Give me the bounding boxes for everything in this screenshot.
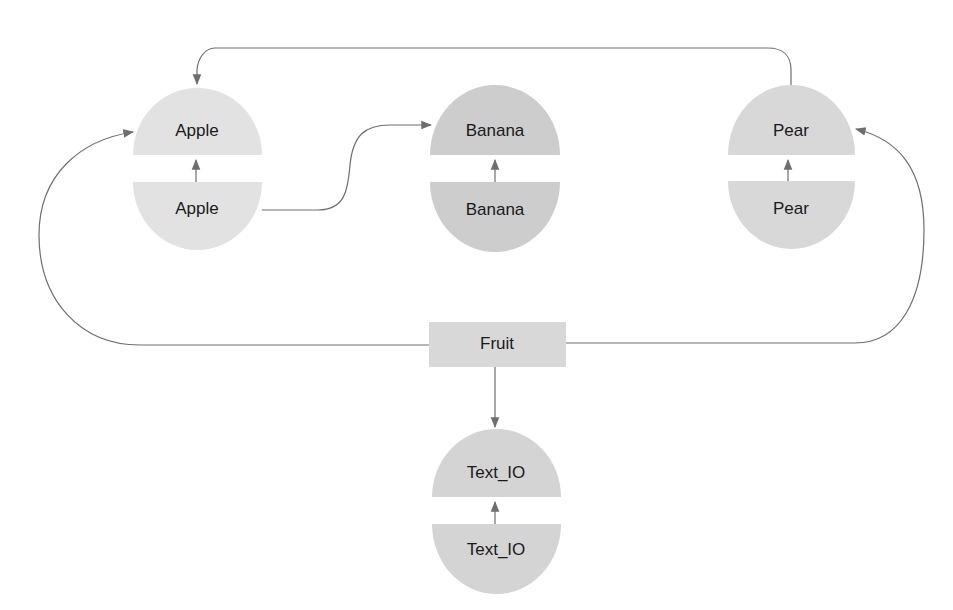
node-pear-spec-label: Pear bbox=[773, 121, 809, 140]
node-apple-body-label: Apple bbox=[175, 199, 218, 218]
node-textio-spec[interactable]: Text_IO bbox=[432, 429, 561, 497]
node-apple-spec-label: Apple bbox=[175, 121, 218, 140]
node-apple-body[interactable]: Apple bbox=[133, 182, 262, 250]
node-banana-body-label: Banana bbox=[466, 200, 525, 219]
node-pear-spec[interactable]: Pear bbox=[728, 85, 855, 155]
edge-fruit-to-apple bbox=[39, 132, 429, 345]
node-textio-spec-label: Text_IO bbox=[467, 463, 526, 482]
node-pear-body[interactable]: Pear bbox=[728, 181, 855, 249]
node-banana-spec[interactable]: Banana bbox=[430, 85, 560, 155]
node-pear-body-label: Pear bbox=[773, 199, 809, 218]
node-banana-spec-label: Banana bbox=[466, 121, 525, 140]
edge-pear-to-apple bbox=[197, 48, 791, 85]
edge-apple-to-banana bbox=[262, 125, 431, 210]
node-apple-spec[interactable]: Apple bbox=[133, 88, 262, 155]
node-banana-body[interactable]: Banana bbox=[430, 182, 560, 252]
node-fruit-label: Fruit bbox=[480, 334, 514, 353]
edge-fruit-to-pear bbox=[566, 129, 924, 343]
node-textio-body[interactable]: Text_IO bbox=[432, 524, 561, 594]
node-textio-body-label: Text_IO bbox=[467, 540, 526, 559]
diagram-canvas: Apple Apple Banana Banana Pear Pear Frui… bbox=[0, 0, 953, 610]
node-fruit[interactable]: Fruit bbox=[429, 322, 566, 367]
